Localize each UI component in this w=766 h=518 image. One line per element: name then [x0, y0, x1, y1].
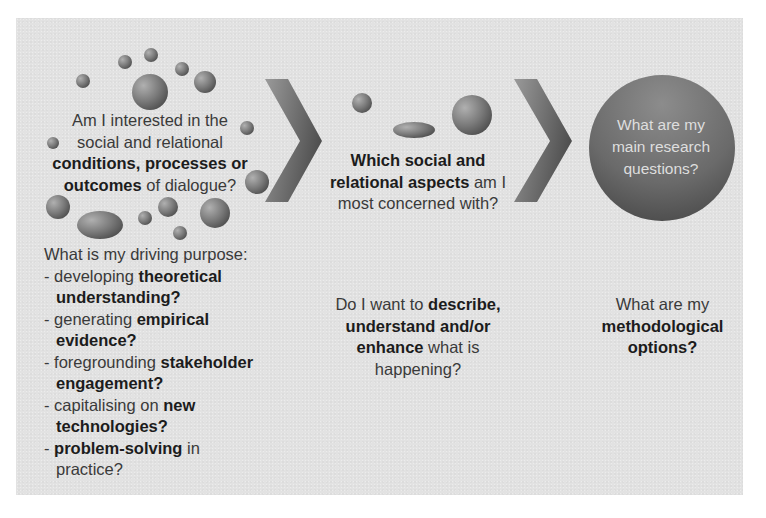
purpose-item-prefix: - [44, 439, 54, 457]
purpose-item-prefix: - generating [44, 310, 137, 328]
purpose-item-bold: stakeholder [161, 353, 254, 371]
purpose-item-cont: evidence? [44, 330, 304, 352]
purpose-item-cont: practice? [44, 459, 304, 481]
approach-line3-rest: what is [424, 338, 480, 356]
purpose-item: - problem-solving in [44, 438, 304, 460]
purpose-heading: What is my driving purpose: [44, 244, 304, 266]
purpose-item-bold: new [163, 396, 195, 414]
q2-line1: Which social and [351, 151, 486, 169]
purpose-item-bold: empirical [137, 310, 209, 328]
purpose-item-cont-bold: engagement? [56, 374, 163, 392]
purpose-item-cont: engagement? [44, 373, 304, 395]
purpose-item-cont: technologies? [44, 416, 304, 438]
step3-methods: What are my methodological options? [590, 294, 735, 359]
q2-line3: most concerned with? [318, 193, 518, 215]
step1-question: Am I interested in the social and relati… [40, 110, 260, 196]
research-questions-label: What are my main research questions? [596, 114, 726, 180]
methods-line1: What are my [590, 294, 735, 316]
q3-line2: main research [596, 136, 726, 158]
q1-line4-rest: of dialogue? [142, 176, 237, 194]
purpose-item-bold: problem-solving [54, 439, 182, 457]
chevron-right-icon [265, 79, 322, 202]
approach-line4: happening? [318, 359, 518, 381]
q1-line4-bold: outcomes [64, 176, 142, 194]
approach-line3-bold: enhance [357, 338, 424, 356]
purpose-item-cont-bold: evidence? [56, 331, 137, 349]
q2-line2-rest: am I [469, 173, 506, 191]
approach-line1-bold: describe, [428, 295, 500, 313]
purpose-item-prefix: - foregrounding [44, 353, 161, 371]
purpose-item-prefix: - capitalising on [44, 396, 163, 414]
step2-question: Which social and relational aspects am I… [318, 150, 518, 215]
step2-approach: Do I want to describe, understand and/or… [318, 294, 518, 380]
purpose-item: - generating empirical [44, 309, 304, 331]
q1-line2: social and relational [40, 132, 260, 154]
approach-line2: understand and/or [346, 317, 491, 335]
purpose-item: - capitalising on new [44, 395, 304, 417]
q2-line2-bold: relational aspects [330, 173, 469, 191]
purpose-item-cont-bold: technologies? [56, 417, 168, 435]
purpose-item: - foregrounding stakeholder [44, 352, 304, 374]
methods-line3: options? [628, 338, 698, 356]
approach-line1: Do I want to [335, 295, 428, 313]
purpose-item-suffix: in [182, 439, 199, 457]
chevron-right-icon [514, 79, 572, 202]
bubble-cluster-icon [352, 93, 492, 138]
driving-purpose-list: What is my driving purpose: - developing… [44, 244, 304, 481]
q3-line3: questions? [596, 158, 726, 180]
methods-line2: methodological [602, 317, 724, 335]
q1-line3: conditions, processes or [52, 154, 247, 172]
purpose-item-cont: understanding? [44, 287, 304, 309]
purpose-item-cont-bold: understanding? [56, 288, 181, 306]
q1-line1: Am I interested in the [40, 110, 260, 132]
q3-line1: What are my [596, 114, 726, 136]
purpose-item-prefix: - developing [44, 267, 138, 285]
purpose-item-bold: theoretical [138, 267, 221, 285]
purpose-item-cont-rest: practice? [56, 460, 123, 478]
purpose-item: - developing theoretical [44, 266, 304, 288]
